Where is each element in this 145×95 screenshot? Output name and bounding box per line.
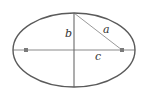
hypotenuse-a	[74, 13, 122, 50]
label-a: a	[103, 23, 110, 36]
label-c: c	[95, 50, 101, 63]
ellipse-diagram: b a c	[0, 0, 145, 95]
right-focus-point	[120, 48, 124, 52]
left-focus-point	[24, 48, 28, 52]
label-b: b	[65, 27, 72, 40]
